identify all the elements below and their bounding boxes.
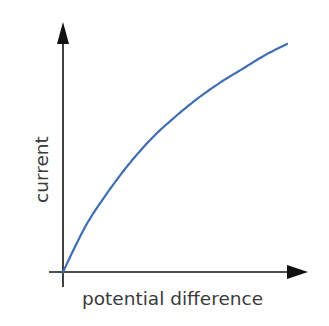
chart: potential difference current (0, 0, 329, 326)
x-axis-arrow-icon (287, 265, 308, 279)
x-axis-label: potential difference (82, 288, 263, 309)
y-axis-arrow-icon (57, 22, 69, 44)
data-curve (63, 44, 287, 272)
y-axis-label: current (31, 136, 52, 203)
